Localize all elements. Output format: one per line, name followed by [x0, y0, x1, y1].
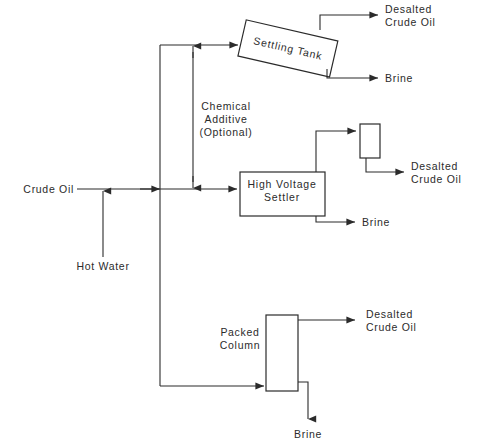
chemical-additive-label-line1: Chemical — [201, 100, 250, 112]
packed-column-label-line2: Column — [220, 339, 260, 351]
high-voltage-settler-group: High Voltage Settler Desalted Crude Oil … — [240, 124, 462, 228]
feed-labels: Crude Oil Hot Water — [23, 183, 129, 272]
packed-column-brine-label: Brine — [294, 428, 322, 440]
settling-tank-brine-outlet — [327, 69, 378, 78]
settling-tank-desalted-outlet — [320, 15, 378, 30]
settling-tank-group: Settling Tank Desalted Crude Oil Brine — [238, 3, 436, 84]
settler-overhead-to-vessel-line — [316, 131, 356, 172]
surge-vessel — [360, 124, 380, 158]
settler-desalted-label-line2: Crude Oil — [411, 173, 462, 185]
process-flow-diagram: Chemical Additive (Optional) Settling Ta… — [0, 0, 481, 446]
settler-desalted-label-line1: Desalted — [411, 160, 458, 172]
packed-column-vessel — [266, 315, 298, 391]
high-voltage-settler-label-line1: High Voltage — [247, 178, 316, 190]
flowsheet-canvas: Chemical Additive (Optional) Settling Ta… — [0, 0, 481, 446]
packed-column-brine-outlet — [298, 382, 308, 419]
hot-water-label: Hot Water — [76, 260, 129, 272]
surge-vessel-desalted-outlet — [366, 158, 404, 172]
settler-brine-label: Brine — [362, 216, 390, 228]
feed-section — [77, 189, 160, 257]
packed-column-desalted-label-line2: Crude Oil — [366, 321, 417, 333]
crude-oil-label: Crude Oil — [23, 183, 74, 195]
packed-column-label-line1: Packed — [220, 326, 259, 338]
settler-brine-outlet — [316, 216, 355, 222]
chemical-additive-line-group: Chemical Additive (Optional) — [193, 46, 253, 188]
packed-column-group: Packed Column Desalted Crude Oil Brine — [220, 308, 417, 440]
settling-tank-brine-label: Brine — [385, 72, 413, 84]
settling-tank-desalted-label-line1: Desalted — [385, 3, 432, 15]
chemical-additive-label-line3: (Optional) — [199, 126, 252, 138]
high-voltage-settler-label-line2: Settler — [264, 191, 300, 203]
chemical-additive-label-line2: Additive — [205, 113, 248, 125]
settling-tank-desalted-label-line2: Crude Oil — [385, 16, 436, 28]
packed-column-desalted-label-line1: Desalted — [366, 308, 413, 320]
